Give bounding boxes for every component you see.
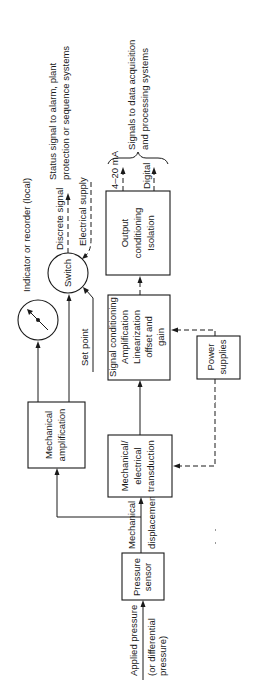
- switch-label: Switch: [62, 259, 73, 287]
- digital-output-label: Digital: [141, 163, 152, 189]
- arrow-head: [55, 468, 60, 475]
- signals-label-2: and processing systems: [139, 48, 150, 150]
- arrow-head: [67, 294, 72, 301]
- arrow-head: [139, 497, 144, 504]
- arrow-head: [173, 464, 180, 469]
- ma-output-label: 4–20 mA: [109, 150, 120, 189]
- arrow-head: [66, 193, 71, 200]
- signal-conditioning-block: Signal conditioning Amplification Linear…: [107, 295, 170, 380]
- differential-label-2: pressure): [157, 636, 168, 676]
- scan-mark: [215, 402, 216, 404]
- displacement-label: displacement: [146, 493, 157, 549]
- amplification-label-1: Mechanical: [43, 411, 54, 459]
- transduction-label-1: Mechanical/: [119, 440, 130, 491]
- electrical-supply-label: Electrical supply: [77, 177, 88, 246]
- dial-pivot: [36, 318, 40, 322]
- set-point-label: Set point: [79, 328, 90, 366]
- pressure-sensor-label-1: Pressure: [131, 558, 142, 596]
- output-label-2: conditioning: [132, 208, 143, 259]
- power-supplies-label-2: supplies: [217, 339, 228, 374]
- conditioning-label-5: gain: [155, 328, 166, 346]
- arrow-head: [138, 276, 143, 283]
- conditioning-label-4: offset and: [143, 316, 154, 358]
- output-conditioning-block: Output conditioning Isolation: [106, 191, 170, 275]
- arrow-head: [121, 167, 126, 174]
- conditioning-label-3: Linearization: [131, 310, 142, 364]
- arrow-head: [171, 328, 178, 333]
- output-label-3: Isolation: [145, 215, 156, 250]
- discrete-signal-label: Discrete signal: [54, 188, 65, 250]
- scan-mark: [215, 389, 216, 391]
- scan-mark: [215, 529, 216, 531]
- mechanical-amplification-block: Mechanical amplification: [28, 402, 85, 468]
- block-diagram: Applied pressure (or differential pressu…: [0, 0, 266, 680]
- indicator-label: Indicator or recorder (local): [21, 178, 32, 292]
- differential-label-1: (or differential: [146, 618, 157, 676]
- conditioning-label-1: Signal conditioning: [107, 297, 118, 377]
- power-to-transduction-line: [177, 379, 215, 466]
- power-to-conditioning-line: [175, 330, 215, 336]
- arrow-head: [36, 341, 41, 348]
- status-signal-label-1: Status signal to alarm, plant: [47, 62, 58, 180]
- amplification-label-2: amplification: [56, 409, 67, 462]
- output-label-1: Output: [119, 218, 130, 247]
- transduction-block: Mechanical/ electrical transduction: [108, 435, 172, 497]
- scan-mark: [215, 542, 216, 544]
- indicator-dial: Indicator or recorder (local): [18, 178, 58, 340]
- arrow-head: [152, 167, 157, 174]
- arrow-head: [138, 380, 143, 387]
- transduction-label-3: transduction: [145, 440, 156, 492]
- applied-pressure-label: Applied pressure: [128, 605, 139, 676]
- signals-label-1: Signals to data acquisition: [126, 40, 137, 150]
- applied-pressure-input: Applied pressure (or differential pressu…: [128, 600, 168, 680]
- pressure-sensor-label-2: sensor: [142, 563, 153, 592]
- pressure-sensor-block: Pressure sensor: [122, 553, 164, 600]
- status-signal-label-2: protection or sequence systems: [60, 46, 71, 180]
- conditioning-label-2: Amplification: [119, 310, 130, 364]
- mechanical-label: Mechanical: [126, 501, 137, 549]
- power-supplies-label-1: Power: [205, 344, 216, 371]
- transduction-label-2: electrical: [132, 447, 143, 485]
- arrow-head: [141, 600, 146, 607]
- power-supplies-block: Power supplies: [197, 336, 240, 379]
